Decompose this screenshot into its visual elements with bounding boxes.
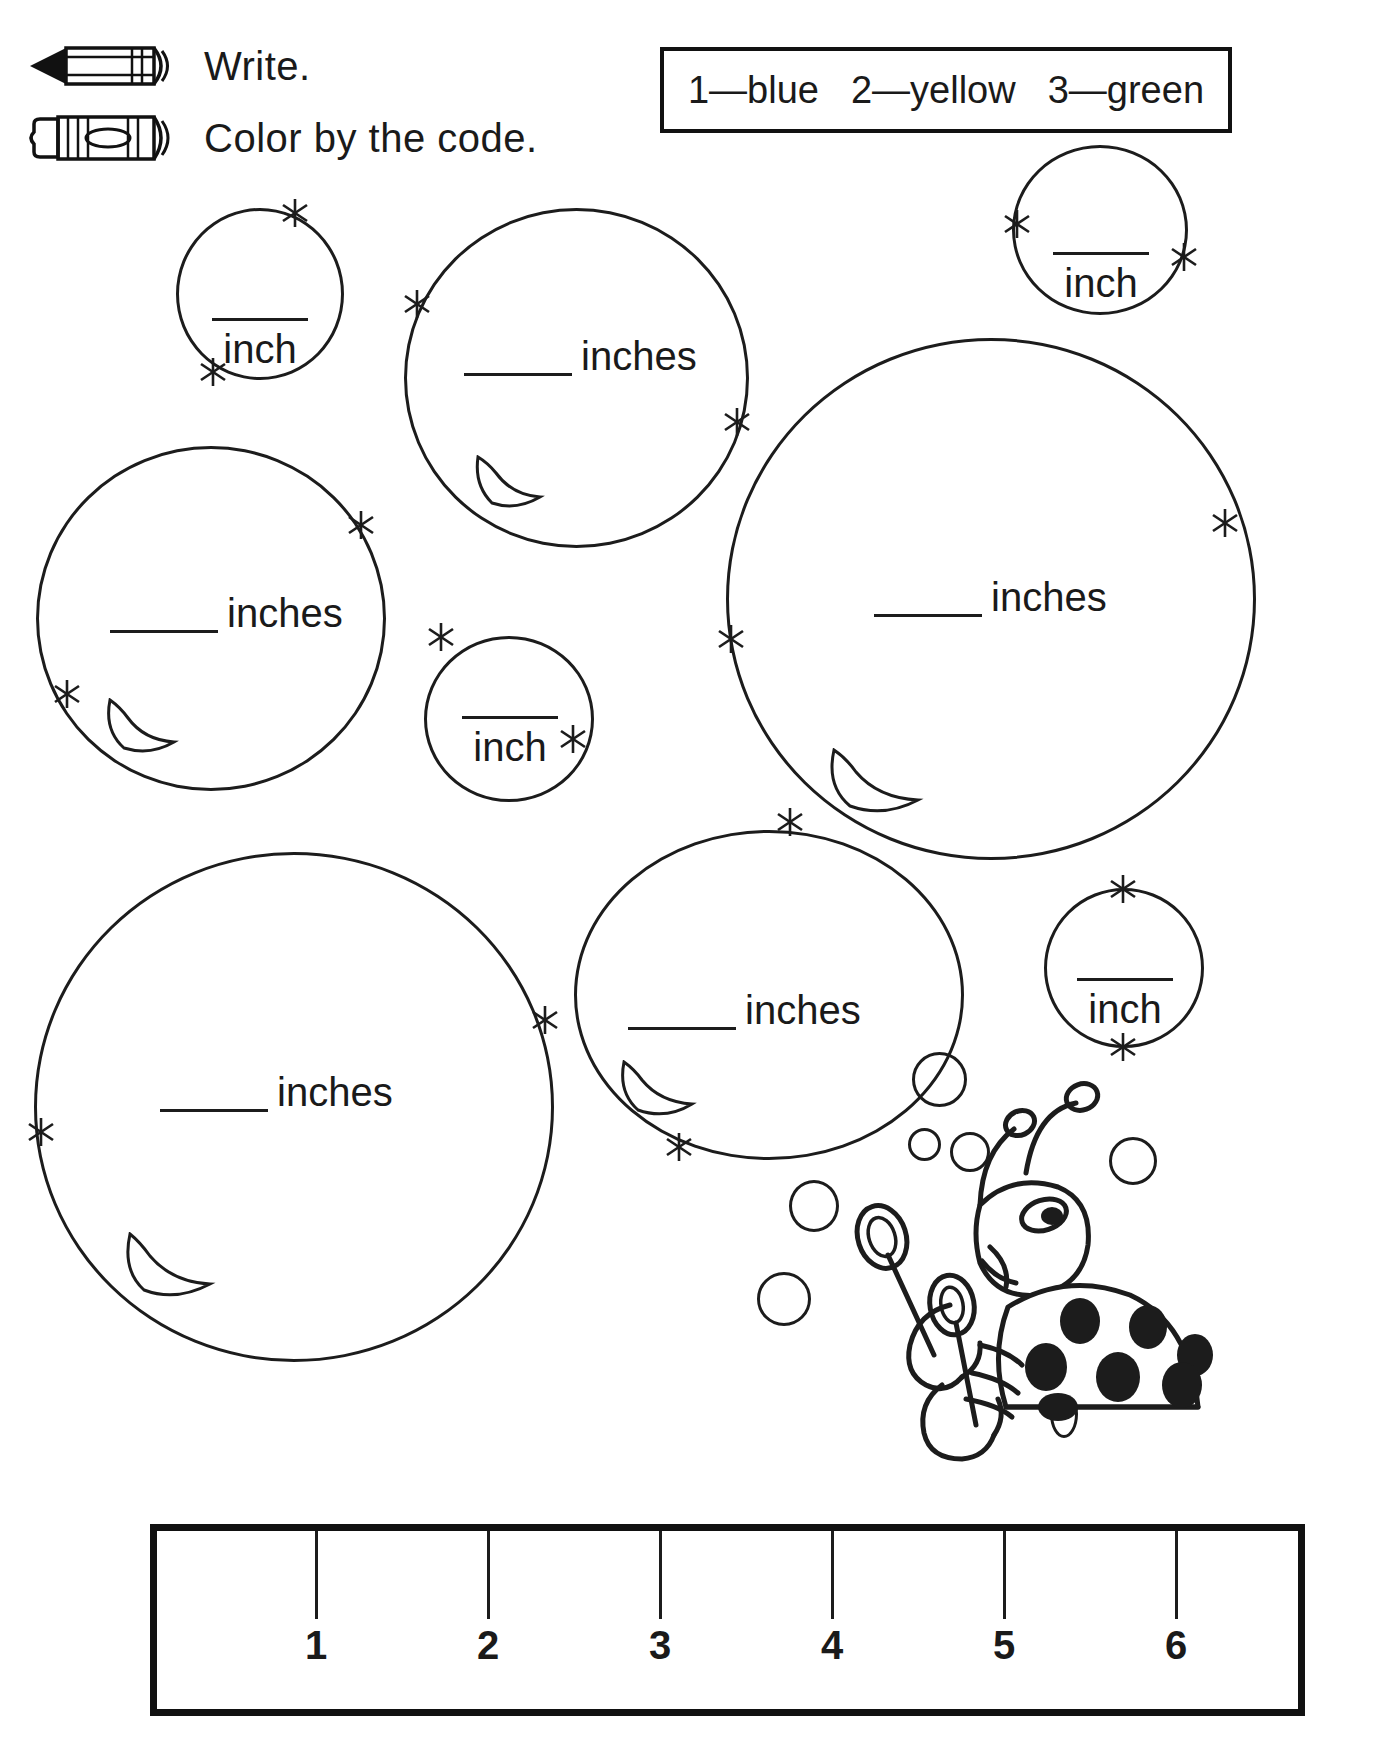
- pencil-icon: [28, 40, 178, 92]
- bubble-small-top-left-answer: inch: [205, 288, 315, 369]
- ruler-tick-5: [1003, 1531, 1006, 1619]
- sparkle-icon: [424, 620, 458, 654]
- ruler-tick-2: [487, 1531, 490, 1619]
- ruler-number-3: 3: [649, 1623, 671, 1668]
- color-code-item-1: 1—blue: [688, 69, 819, 112]
- answer-blank-line[interactable]: [212, 288, 308, 321]
- color-code-box: 1—blue 2—yellow 3—green: [660, 47, 1232, 133]
- answer-blank-line[interactable]: [874, 584, 982, 617]
- ruler-number-2: 2: [477, 1623, 499, 1668]
- instruction-label-write: Write.: [204, 44, 311, 89]
- ruler: 1 2 3 4 5 6: [150, 1524, 1305, 1716]
- unit-label: inch: [1064, 261, 1137, 305]
- unit-label: inches: [745, 990, 861, 1030]
- ladybug-illustration: [830, 1055, 1230, 1475]
- bubble-small-bottom-right-answer: inch: [1070, 948, 1180, 1029]
- ruler-number-1: 1: [305, 1623, 327, 1668]
- answer-blank-line[interactable]: [462, 686, 558, 719]
- answer-blank-line[interactable]: [110, 600, 218, 633]
- unit-label: inches: [991, 577, 1107, 617]
- answer-blank-line[interactable]: [1053, 222, 1149, 255]
- unit-label: inches: [581, 336, 697, 376]
- instructions-block: Write. Color by the code.: [28, 30, 638, 174]
- bubble-large-bottom-left-answer: inches: [160, 1072, 393, 1112]
- unit-label: inch: [1088, 987, 1161, 1031]
- bubble-large-top-center: [404, 208, 749, 548]
- bubble-large-bottom-center-answer: inches: [628, 990, 861, 1030]
- answer-blank-line[interactable]: [628, 997, 736, 1030]
- answer-blank-line[interactable]: [160, 1079, 268, 1112]
- unit-label: inch: [223, 327, 296, 371]
- ruler-number-6: 6: [1165, 1623, 1187, 1668]
- bubble-large-mid-right-answer: inches: [874, 577, 1107, 617]
- ruler-tick-6: [1175, 1531, 1178, 1619]
- crayon-icon: [28, 112, 178, 164]
- ruler-tick-3: [659, 1531, 662, 1619]
- instruction-row-write: Write.: [28, 30, 638, 102]
- unit-label: inches: [227, 593, 343, 633]
- ruler-tick-1: [315, 1531, 318, 1619]
- color-code-list: 1—blue 2—yellow 3—green: [672, 69, 1220, 112]
- bubble-small-center-answer: inch: [455, 686, 565, 767]
- instruction-label-color: Color by the code.: [204, 116, 538, 161]
- color-code-item-2: 2—yellow: [851, 69, 1016, 112]
- unit-label: inch: [473, 725, 546, 769]
- ruler-tick-4: [831, 1531, 834, 1619]
- bubble-large-top-center-answer: inches: [464, 336, 697, 376]
- bubble-large-mid-left-answer: inches: [110, 593, 343, 633]
- color-code-item-3: 3—green: [1048, 69, 1204, 112]
- ruler-number-5: 5: [993, 1623, 1015, 1668]
- unit-label: inches: [277, 1072, 393, 1112]
- answer-blank-line[interactable]: [1077, 948, 1173, 981]
- answer-blank-line[interactable]: [464, 343, 572, 376]
- instruction-row-color: Color by the code.: [28, 102, 638, 174]
- bubble-small-top-right-answer: inch: [1046, 222, 1156, 303]
- worksheet-page: Write. Color by the code.: [0, 0, 1398, 1739]
- ruler-number-4: 4: [821, 1623, 843, 1668]
- mini-bubble: [757, 1272, 811, 1326]
